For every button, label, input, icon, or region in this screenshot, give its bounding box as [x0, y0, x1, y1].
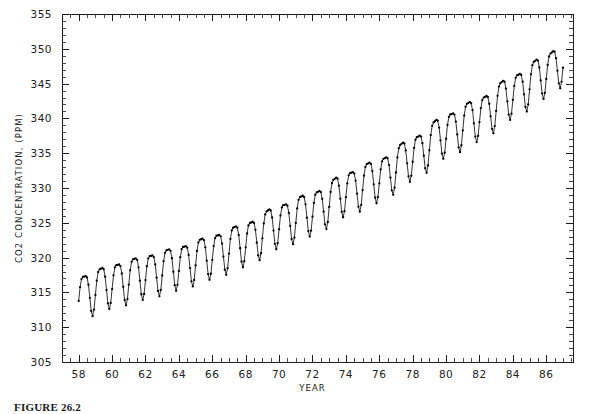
- data-point: [378, 182, 380, 184]
- data-point: [91, 315, 93, 317]
- data-point: [437, 120, 439, 122]
- data-point: [275, 248, 277, 250]
- data-point: [353, 172, 355, 174]
- data-point: [446, 124, 448, 126]
- data-point: [142, 299, 144, 301]
- data-point: [509, 119, 511, 121]
- data-point: [190, 280, 192, 282]
- data-point: [405, 149, 407, 151]
- data-point: [389, 177, 391, 179]
- data-point: [439, 139, 441, 141]
- data-point: [448, 116, 450, 118]
- data-point: [510, 113, 512, 115]
- x-tick-label: 60: [105, 368, 119, 380]
- data-point: [558, 82, 560, 84]
- data-point: [236, 227, 238, 229]
- x-tick-label: 80: [439, 368, 453, 380]
- data-point: [187, 254, 189, 256]
- data-point: [228, 252, 230, 254]
- data-point: [104, 276, 106, 278]
- data-point: [130, 261, 132, 263]
- data-point: [395, 171, 397, 173]
- data-point: [537, 59, 539, 61]
- data-point: [122, 286, 124, 288]
- data-point: [553, 51, 555, 53]
- x-tick-label: 76: [372, 368, 386, 380]
- data-point: [496, 95, 498, 97]
- y-tick-label: 350: [30, 43, 52, 55]
- data-point: [153, 256, 155, 258]
- data-point: [562, 67, 564, 69]
- co2-series-markers: [78, 50, 565, 317]
- y-axis-title: CO2 CONCENTRATION, (PPM): [14, 113, 24, 263]
- data-point: [303, 196, 305, 198]
- data-point: [324, 223, 326, 225]
- data-point: [78, 300, 80, 302]
- data-point: [136, 259, 138, 261]
- data-point: [253, 222, 255, 224]
- data-point: [125, 304, 127, 306]
- data-point: [80, 278, 82, 280]
- y-tick-label: 320: [30, 252, 52, 264]
- data-point: [207, 273, 209, 275]
- data-point: [547, 64, 549, 66]
- data-point: [322, 211, 324, 213]
- data-point: [381, 160, 383, 162]
- data-point: [393, 187, 395, 189]
- data-point: [128, 283, 130, 285]
- data-point: [424, 167, 426, 169]
- data-point: [455, 120, 457, 122]
- data-point: [311, 216, 313, 218]
- data-point: [410, 175, 412, 177]
- data-point: [314, 194, 316, 196]
- data-point: [398, 147, 400, 149]
- data-point: [520, 74, 522, 76]
- co2-concentration-chart: 586062646668707274767880828486 305310315…: [0, 0, 589, 396]
- data-point: [373, 183, 375, 185]
- y-tick-label: 305: [30, 356, 52, 368]
- data-point: [213, 245, 215, 247]
- data-point: [471, 109, 473, 111]
- data-point: [144, 279, 146, 281]
- data-point: [503, 81, 505, 83]
- data-point: [491, 128, 493, 130]
- data-point: [320, 191, 322, 193]
- data-point: [242, 266, 244, 268]
- data-point: [555, 57, 557, 59]
- data-point: [203, 239, 205, 241]
- data-point: [457, 146, 459, 148]
- data-point: [208, 279, 210, 281]
- data-point: [245, 246, 247, 248]
- data-point: [445, 138, 447, 140]
- data-point: [560, 81, 562, 83]
- data-point: [380, 168, 382, 170]
- data-point: [441, 152, 443, 154]
- data-point: [409, 181, 411, 183]
- data-point: [498, 85, 500, 87]
- data-point: [292, 243, 294, 245]
- x-axis-ticks: [63, 14, 572, 362]
- data-point: [343, 210, 345, 212]
- data-point: [161, 274, 163, 276]
- data-point: [346, 182, 348, 184]
- data-point: [89, 297, 91, 299]
- data-point: [121, 272, 123, 274]
- data-point: [463, 114, 465, 116]
- x-axis-title: YEAR: [298, 383, 326, 393]
- data-point: [414, 139, 416, 141]
- data-point: [309, 235, 311, 237]
- data-point: [462, 129, 464, 131]
- data-point: [515, 77, 517, 79]
- data-point: [87, 284, 89, 286]
- data-point: [147, 257, 149, 259]
- y-tick-label: 335: [30, 147, 52, 159]
- co2-series-line: [79, 51, 563, 316]
- data-point: [114, 266, 116, 268]
- data-point: [361, 189, 363, 191]
- data-point: [79, 286, 81, 288]
- data-point: [359, 211, 361, 213]
- data-point: [476, 141, 478, 143]
- data-point: [196, 250, 198, 252]
- data-point: [111, 288, 113, 290]
- data-point: [295, 222, 297, 224]
